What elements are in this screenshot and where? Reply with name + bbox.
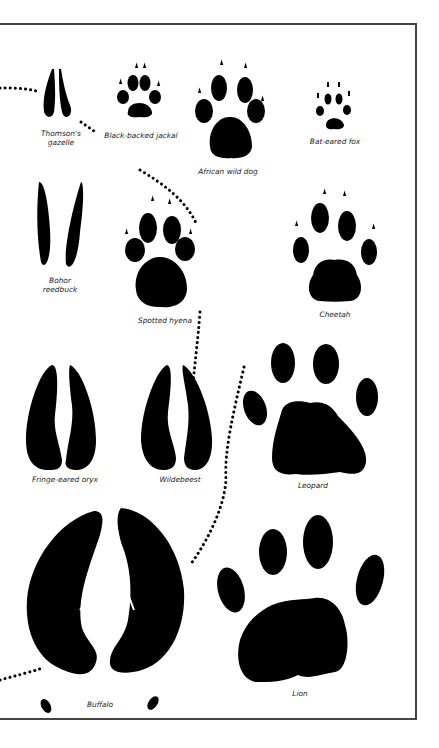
spotted-hyena-track-icon [125,196,195,308]
track-illustrations [0,0,439,748]
label-wildebeest: Wildebeest [145,475,215,484]
label-spotted-hyena: Spotted hyena [125,316,205,325]
label-buffalo: Buffalo [70,700,130,709]
bat-eared-fox-track-icon [316,82,351,129]
label-african-wild-dog: African wild dog [188,167,268,176]
leopard-track-icon [239,343,378,475]
bohor-reedbuck-track-icon [37,182,83,267]
label-thomsons-gazelle: Thomson's gazelle [30,129,92,147]
african-wild-dog-track-icon [195,60,265,159]
label-bat-eared-fox: Bat-eared fox [300,137,370,146]
thomsons-gazelle-track-icon [44,69,71,117]
label-leopard: Leopard [283,481,343,490]
buffalo-track-icon [27,508,184,715]
label-bohor-reedbuck: Bohor reedbuck [30,276,90,294]
label-fringe-eared-oryx: Fringe-eared oryx [20,475,110,484]
fringe-eared-oryx-track-icon [26,365,96,470]
label-black-backed-jackal: Black-backed jackal [96,131,186,140]
label-cheetah: Cheetah [300,310,370,319]
label-lion: Lion [270,689,330,698]
wildebeest-track-icon [141,365,212,470]
black-backed-jackal-track-icon [117,63,161,118]
cheetah-track-icon [293,189,377,302]
lion-track-icon [212,515,389,682]
